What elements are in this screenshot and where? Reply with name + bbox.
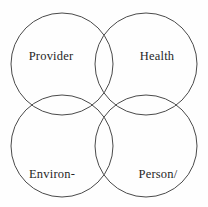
venn-label-health: Health bbox=[117, 49, 197, 64]
venn-label-provider: Provider bbox=[8, 49, 94, 64]
venn-label-person-family-line1: Person/ bbox=[116, 167, 200, 182]
venn-label-person-family: Person/ Family bbox=[116, 137, 200, 207]
venn-label-environment: Environ- ment bbox=[8, 137, 96, 207]
venn-label-environment-line1: Environ- bbox=[8, 167, 96, 182]
venn-circle-provider bbox=[11, 13, 113, 115]
venn-diagram: Provider Health Environ- ment Person/ Fa… bbox=[0, 0, 208, 207]
venn-circle-health bbox=[95, 13, 197, 115]
